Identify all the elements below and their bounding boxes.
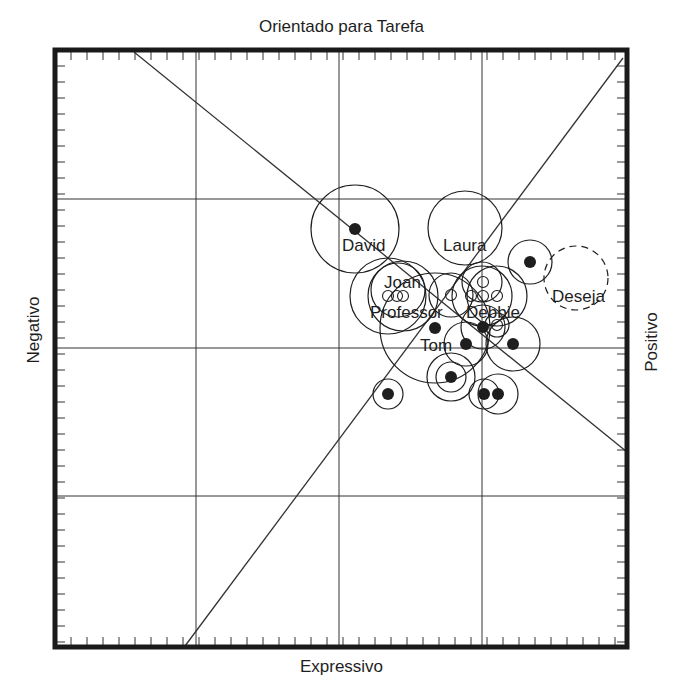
member-label: David bbox=[342, 236, 385, 255]
member-label: Professor bbox=[370, 303, 443, 322]
sociogram-plot: DavidLauraJoanProfessorDebbieTomDeseja bbox=[0, 0, 683, 700]
diagonal-lines bbox=[134, 52, 627, 646]
filled-marker bbox=[477, 321, 489, 333]
open-marker bbox=[466, 291, 477, 302]
member-label: Tom bbox=[420, 336, 452, 355]
filled-marker bbox=[382, 388, 394, 400]
open-marker bbox=[392, 291, 403, 302]
member-label: Deseja bbox=[552, 287, 605, 306]
filled-marker bbox=[492, 388, 504, 400]
member-label: Joan bbox=[384, 273, 421, 292]
filled-marker bbox=[524, 256, 536, 268]
filled-marker bbox=[507, 338, 519, 350]
open-marker bbox=[478, 291, 489, 302]
member-label: Debbie bbox=[466, 303, 520, 322]
grid-lines bbox=[55, 50, 627, 647]
filled-marker bbox=[429, 322, 441, 334]
filled-marker bbox=[349, 223, 361, 235]
filled-marker bbox=[445, 371, 457, 383]
open-marker bbox=[446, 290, 457, 301]
filled-marker bbox=[460, 338, 472, 350]
open-marker bbox=[492, 291, 503, 302]
member-label: Laura bbox=[443, 236, 487, 255]
filled-marker bbox=[478, 388, 490, 400]
open-marker bbox=[478, 277, 489, 288]
